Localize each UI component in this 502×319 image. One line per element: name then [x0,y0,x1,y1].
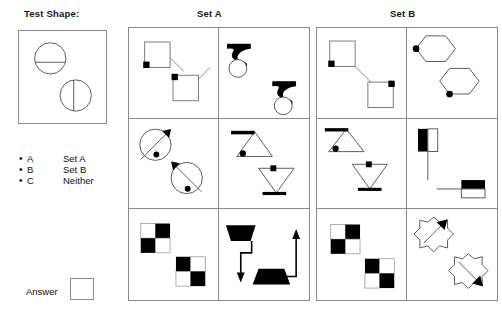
option-c-text: Neither [63,175,94,186]
option-a-letter: A [27,153,63,164]
answer-box[interactable] [70,278,94,300]
set-a-cell-3 [129,119,219,210]
option-c-letter: C [27,175,63,186]
option-a[interactable]: • A Set A [19,153,119,164]
bullet-icon: • [19,164,27,175]
set-b-cell-5 [317,209,407,300]
set-a-title: Set A [197,8,222,19]
set-a-panel [128,27,310,301]
test-shape-figures [19,31,106,123]
set-b-cell-4 [407,119,497,210]
set-a-cell-5 [129,209,219,300]
set-b-panel [316,27,498,301]
set-b-title: Set B [390,8,415,19]
set-a-cell-6 [219,209,309,300]
set-b-cell-2 [407,28,497,119]
set-a-cell-4 [219,119,309,210]
set-a-cell-2 [219,28,309,119]
puzzle-page: Test Shape: • A Set A • B Set B • C Neit… [0,0,502,319]
options-list: • A Set A • B Set B • C Neither [19,153,119,186]
option-a-text: Set A [63,153,86,164]
option-b-text: Set B [63,164,86,175]
set-b-cell-1 [317,28,407,119]
test-shape-panel [18,30,107,124]
set-a-cell-1 [129,28,219,119]
bullet-icon: • [19,153,27,164]
answer-label: Answer [26,286,58,297]
set-b-cell-6 [407,209,497,300]
set-b-cell-3 [317,119,407,210]
test-shape-title: Test Shape: [24,8,79,19]
bullet-icon: • [19,175,27,186]
option-b[interactable]: • B Set B [19,164,119,175]
option-c[interactable]: • C Neither [19,175,119,186]
option-b-letter: B [27,164,63,175]
